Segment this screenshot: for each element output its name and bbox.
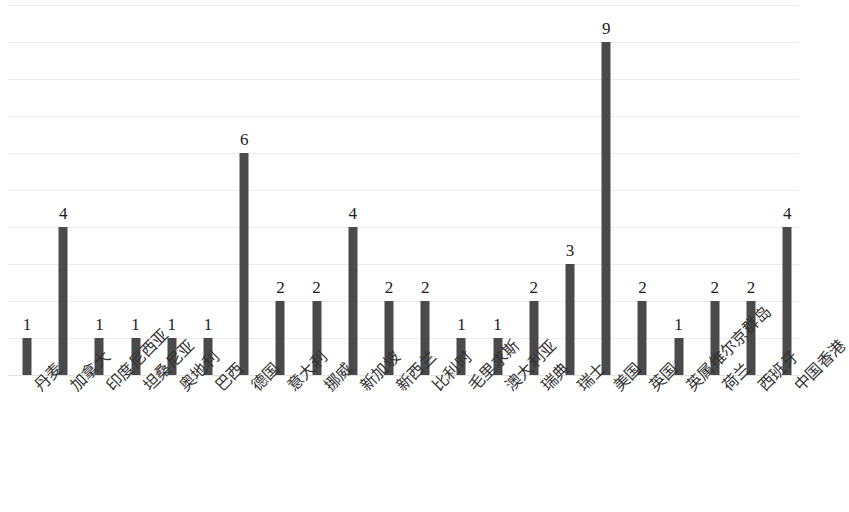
bar-value-label: 4 bbox=[783, 205, 792, 222]
bar-slot: 2 bbox=[371, 0, 407, 378]
bar-value-label: 4 bbox=[349, 205, 358, 222]
bar bbox=[348, 227, 357, 375]
bar-slot: 2 bbox=[697, 0, 733, 378]
bar-value-label: 2 bbox=[747, 279, 756, 296]
bar-slot: 1 bbox=[9, 0, 45, 378]
bar-slot: 1 bbox=[118, 0, 154, 378]
bar-slot: 3 bbox=[552, 0, 588, 378]
bar-value-label: 2 bbox=[638, 279, 647, 296]
plot-area: 1411116224221123921224 bbox=[0, 0, 805, 378]
bar-value-label: 2 bbox=[385, 279, 394, 296]
bar bbox=[602, 42, 611, 375]
bar-value-label: 1 bbox=[23, 316, 32, 333]
bar-value-label: 2 bbox=[276, 279, 285, 296]
bar-slot: 4 bbox=[335, 0, 371, 378]
bar bbox=[240, 153, 249, 375]
bar-value-label: 1 bbox=[168, 316, 177, 333]
bar-value-label: 1 bbox=[131, 316, 140, 333]
bar-slot: 2 bbox=[299, 0, 335, 378]
bar-slot: 2 bbox=[516, 0, 552, 378]
bar-value-label: 1 bbox=[204, 316, 213, 333]
x-axis-labels-group: 丹麦加拿大印度尼西亚坦桑尼亚奥地利巴西德国意大利挪威新加坡新西兰比利时毛里求斯澳… bbox=[0, 378, 805, 512]
bar-slot: 4 bbox=[45, 0, 81, 378]
bar-slot: 1 bbox=[661, 0, 697, 378]
bar-slot: 6 bbox=[226, 0, 262, 378]
bar bbox=[638, 301, 647, 375]
bar-value-label: 1 bbox=[674, 316, 683, 333]
bar bbox=[276, 301, 285, 375]
bar-value-label: 2 bbox=[530, 279, 539, 296]
bar-value-label: 9 bbox=[602, 20, 611, 37]
bar-value-label: 2 bbox=[711, 279, 720, 296]
bar-value-label: 6 bbox=[240, 131, 249, 148]
bar-value-label: 4 bbox=[59, 205, 68, 222]
bar-slot: 1 bbox=[443, 0, 479, 378]
bar-value-label: 1 bbox=[493, 316, 502, 333]
bar-value-label: 1 bbox=[95, 316, 104, 333]
bar-value-label: 2 bbox=[312, 279, 321, 296]
bar bbox=[59, 227, 68, 375]
bar-slot: 4 bbox=[769, 0, 805, 378]
bar-slot: 1 bbox=[480, 0, 516, 378]
bar-value-label: 2 bbox=[421, 279, 430, 296]
bar-slot: 2 bbox=[407, 0, 443, 378]
bar-slot: 2 bbox=[624, 0, 660, 378]
bar-value-label: 3 bbox=[566, 242, 575, 259]
bar bbox=[566, 264, 575, 375]
bar-value-label: 1 bbox=[457, 316, 466, 333]
bar-slot: 1 bbox=[81, 0, 117, 378]
bars-group: 1411116224221123921224 bbox=[0, 0, 805, 378]
bar-slot: 2 bbox=[262, 0, 298, 378]
bar-slot: 9 bbox=[588, 0, 624, 378]
bar bbox=[23, 338, 32, 375]
bar-slot: 1 bbox=[190, 0, 226, 378]
bar-slot: 1 bbox=[154, 0, 190, 378]
